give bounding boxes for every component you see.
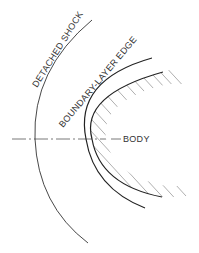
shock-label: DETACHED SHOCK [30,10,85,90]
detached-shock-diagram: DETACHED SHOCK BOUNDARY-LAYER EDGE BODY [0,0,199,253]
body-label: BODY [123,134,150,144]
detached-shock [35,20,92,243]
